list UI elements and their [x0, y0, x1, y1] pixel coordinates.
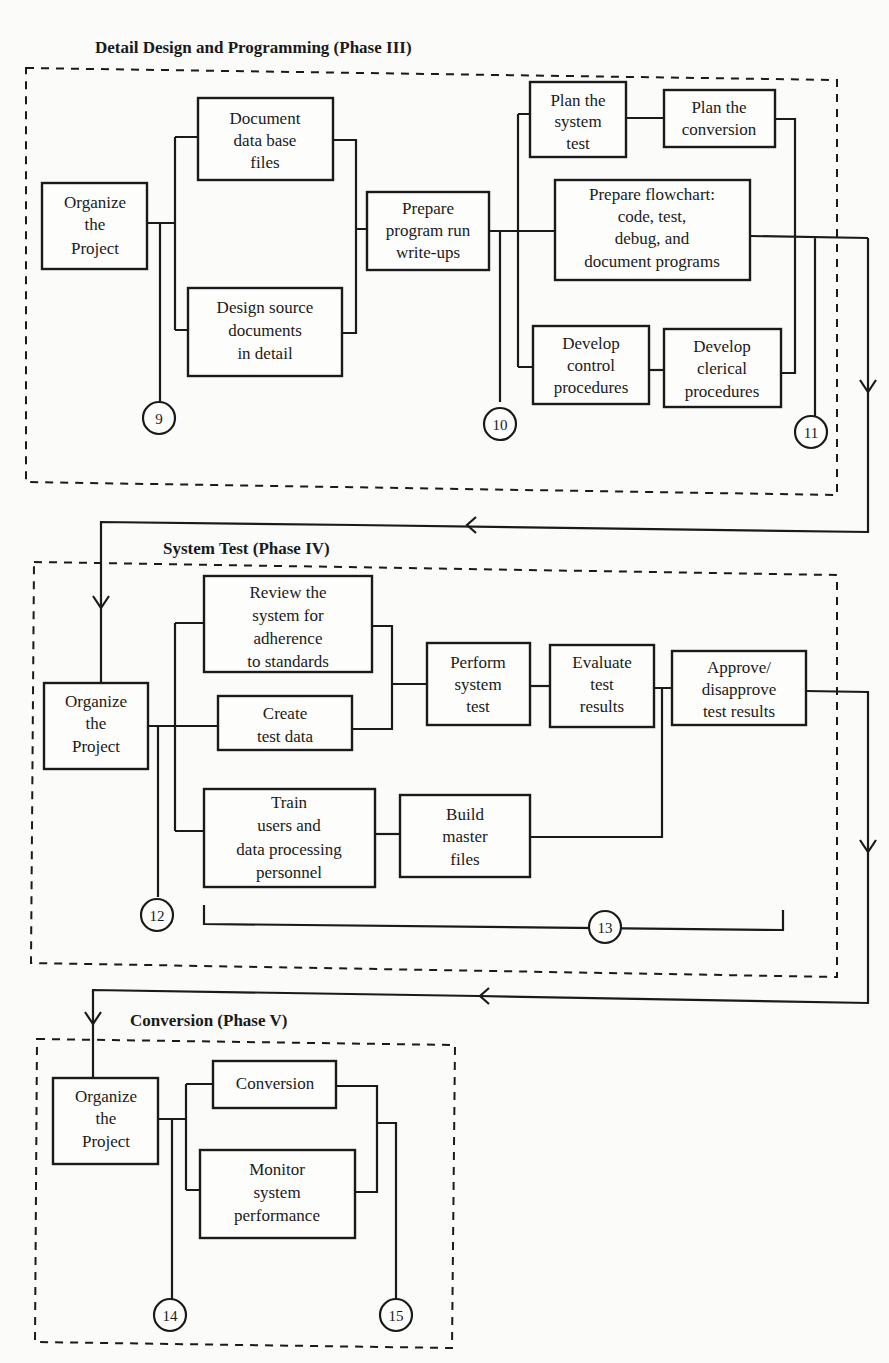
svg-text:test: test: [590, 675, 614, 694]
svg-text:document programs: document programs: [584, 252, 720, 271]
task-organize-project[interactable]: Organize the Project: [42, 183, 147, 269]
svg-text:data base: data base: [234, 131, 297, 150]
svg-text:test results: test results: [703, 702, 775, 721]
svg-text:Develop: Develop: [562, 334, 620, 353]
svg-text:Document: Document: [230, 109, 301, 128]
svg-text:Project: Project: [82, 1132, 130, 1151]
svg-text:Build: Build: [446, 805, 484, 824]
svg-text:system: system: [253, 1183, 300, 1202]
svg-text:test data: test data: [257, 727, 314, 746]
svg-text:debug, and: debug, and: [615, 229, 690, 248]
phase-4-group: System Test (Phase IV) Organize the Proj…: [31, 522, 876, 1004]
connector: [147, 223, 175, 402]
phase-3-title: Detail Design and Programming (Phase III…: [95, 38, 412, 57]
task-conversion[interactable]: Conversion: [213, 1061, 336, 1108]
task-train-users[interactable]: Train users and data processing personne…: [204, 789, 375, 887]
milestone-10[interactable]: 10: [484, 408, 516, 440]
task-perform-system-test[interactable]: Perform system test: [427, 643, 530, 725]
svg-text:Create: Create: [263, 704, 307, 723]
task-develop-control-procedures[interactable]: Develop control procedures: [533, 326, 649, 404]
task-build-master-files[interactable]: Build master files: [400, 795, 530, 877]
task-develop-clerical-procedures[interactable]: Develop clerical procedures: [664, 329, 781, 407]
svg-text:Prepare: Prepare: [402, 199, 454, 218]
svg-text:Conversion: Conversion: [236, 1074, 315, 1093]
svg-text:control: control: [567, 356, 615, 375]
svg-text:in detail: in detail: [237, 344, 293, 363]
milestone-9[interactable]: 9: [143, 402, 175, 434]
svg-text:11: 11: [804, 425, 818, 441]
svg-text:Project: Project: [72, 737, 120, 756]
svg-text:14: 14: [163, 1308, 179, 1324]
task-document-database-files[interactable]: Document data base files: [198, 98, 333, 180]
svg-text:Review the: Review the: [250, 583, 327, 602]
task-plan-conversion[interactable]: Plan the conversion: [664, 90, 775, 147]
arrow-left-icon: [467, 517, 476, 533]
svg-text:users and: users and: [257, 816, 321, 835]
task-prepare-program-run-writeups[interactable]: Prepare program run write-ups: [367, 192, 489, 270]
svg-text:disapprove: disapprove: [702, 680, 777, 699]
svg-text:the: the: [96, 1109, 117, 1128]
svg-text:to standards: to standards: [247, 652, 329, 671]
svg-text:10: 10: [493, 417, 508, 433]
svg-text:procedures: procedures: [685, 382, 760, 401]
milestone-11[interactable]: 11: [795, 416, 827, 448]
svg-text:procedures: procedures: [554, 378, 629, 397]
svg-text:Monitor: Monitor: [249, 1160, 305, 1179]
svg-text:Plan the: Plan the: [550, 91, 605, 110]
connector: [158, 1119, 186, 1305]
milestone-13[interactable]: 13: [589, 911, 621, 943]
svg-text:13: 13: [598, 920, 613, 936]
task-organize-project[interactable]: Organize the Project: [44, 683, 148, 769]
svg-text:Perform: Perform: [450, 653, 506, 672]
svg-text:adherence: adherence: [254, 629, 323, 648]
svg-text:test: test: [566, 134, 590, 153]
project-phase-diagram: Detail Design and Programming (Phase III…: [0, 0, 889, 1363]
svg-text:performance: performance: [234, 1206, 320, 1225]
svg-text:code, test,: code, test,: [618, 207, 686, 226]
svg-text:12: 12: [150, 908, 165, 924]
phase-4-title: System Test (Phase IV): [163, 539, 330, 558]
task-monitor-system-performance[interactable]: Monitor system performance: [200, 1150, 355, 1238]
svg-text:Train: Train: [271, 793, 308, 812]
svg-text:Evaluate: Evaluate: [572, 653, 631, 672]
svg-text:data processing: data processing: [236, 840, 342, 859]
svg-text:clerical: clerical: [697, 359, 747, 378]
task-approve-test-results[interactable]: Approve/ disapprove test results: [672, 651, 806, 725]
connector: [204, 905, 783, 930]
task-evaluate-test-results[interactable]: Evaluate test results: [550, 645, 654, 727]
phase-5-title: Conversion (Phase V): [130, 1011, 287, 1030]
milestone-15[interactable]: 15: [380, 1299, 412, 1331]
svg-text:master: master: [442, 827, 488, 846]
svg-text:Organize: Organize: [64, 193, 126, 212]
phase-3-group: Detail Design and Programming (Phase III…: [26, 38, 876, 533]
task-review-system-standards[interactable]: Review the system for adherence to stand…: [204, 576, 372, 672]
svg-text:the: the: [85, 215, 106, 234]
task-design-source-documents[interactable]: Design source documents in detail: [188, 288, 342, 376]
svg-text:Develop: Develop: [693, 337, 751, 356]
task-create-test-data[interactable]: Create test data: [218, 696, 352, 750]
task-organize-project[interactable]: Organize the Project: [53, 1078, 158, 1164]
svg-text:the: the: [86, 714, 107, 733]
svg-text:Prepare flowchart:: Prepare flowchart:: [589, 185, 715, 204]
svg-text:system: system: [454, 675, 501, 694]
milestone-12[interactable]: 12: [141, 899, 173, 931]
svg-text:files: files: [250, 153, 279, 172]
svg-text:Organize: Organize: [75, 1087, 137, 1106]
task-prepare-flowchart[interactable]: Prepare flowchart: code, test, debug, an…: [555, 180, 750, 280]
svg-text:9: 9: [155, 411, 163, 427]
phase-5-group: Conversion (Phase V) Organize the Projec…: [35, 990, 478, 1348]
svg-text:Design source: Design source: [217, 298, 314, 317]
svg-text:program run: program run: [386, 221, 471, 240]
svg-text:Project: Project: [71, 239, 119, 258]
svg-text:conversion: conversion: [682, 120, 757, 139]
svg-text:write-ups: write-ups: [396, 243, 460, 262]
svg-text:system for: system for: [252, 606, 324, 625]
svg-text:Approve/: Approve/: [707, 658, 771, 677]
svg-text:15: 15: [389, 1308, 404, 1324]
svg-text:Organize: Organize: [65, 692, 127, 711]
svg-text:system: system: [554, 112, 601, 131]
task-plan-system-test[interactable]: Plan the system test: [530, 82, 626, 157]
svg-text:Plan the: Plan the: [691, 98, 746, 117]
svg-text:files: files: [450, 850, 479, 869]
milestone-14[interactable]: 14: [154, 1299, 186, 1331]
